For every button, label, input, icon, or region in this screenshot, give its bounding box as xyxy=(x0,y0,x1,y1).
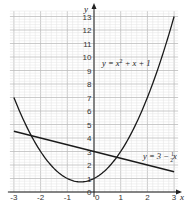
y-tick-label: 4 xyxy=(87,134,92,143)
y-tick-label: 8 xyxy=(87,80,92,89)
x-tick-label: 2 xyxy=(145,193,150,202)
line-label: y = 3 − 12x xyxy=(142,151,177,163)
y-tick-label: 10 xyxy=(83,53,92,62)
y-tick-label: 2 xyxy=(87,161,92,170)
x-axis-label: x xyxy=(179,192,184,202)
parabola-label: y = x2 + x + 1 xyxy=(101,58,151,69)
y-tick-label: 6 xyxy=(87,107,92,116)
x-tick-label: 0 xyxy=(95,193,100,202)
y-tick-label: 1 xyxy=(87,175,92,184)
x-tick-label: -3 xyxy=(10,193,18,202)
x-tick-label: 3 xyxy=(172,193,177,202)
y-tick-label: 9 xyxy=(87,67,92,76)
y-tick-label: 3 xyxy=(87,148,92,157)
y-tick-label: 7 xyxy=(87,94,92,103)
y-tick-label: 5 xyxy=(87,121,92,130)
x-tick-label: -1 xyxy=(64,193,72,202)
y-tick-label: 0 xyxy=(87,188,92,197)
x-tick-label: 1 xyxy=(118,193,123,202)
y-axis-label: y xyxy=(83,4,88,14)
x-tick-label: -2 xyxy=(37,193,45,202)
chart: -3-2-11230123456789101112130 y x y = x2 … xyxy=(0,0,186,202)
y-tick-label: 11 xyxy=(83,40,92,49)
y-tick-label: 12 xyxy=(83,26,92,35)
